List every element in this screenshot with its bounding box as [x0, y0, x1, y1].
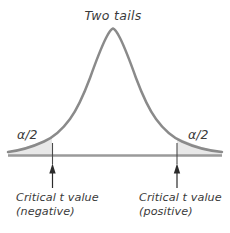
pointer-arrow-negative [49, 164, 55, 189]
caption-negative-line1: Critical t value [16, 191, 99, 204]
caption-negative-line2: (negative) [16, 205, 75, 218]
alpha-over-two-label-right: α/2 [188, 127, 208, 142]
alpha-over-two-label-left: α/2 [17, 127, 37, 142]
caption-positive-line1: Critical t value [139, 191, 222, 204]
distribution-chart-svg: Two tails α/2 α/2 Critical t value (nega… [0, 0, 230, 233]
caption-positive-line2: (positive) [139, 205, 193, 218]
chart-title: Two tails [84, 8, 141, 23]
pointer-arrow-positive [174, 164, 180, 189]
two-tailed-t-distribution-figure: Two tails α/2 α/2 Critical t value (nega… [0, 0, 230, 233]
